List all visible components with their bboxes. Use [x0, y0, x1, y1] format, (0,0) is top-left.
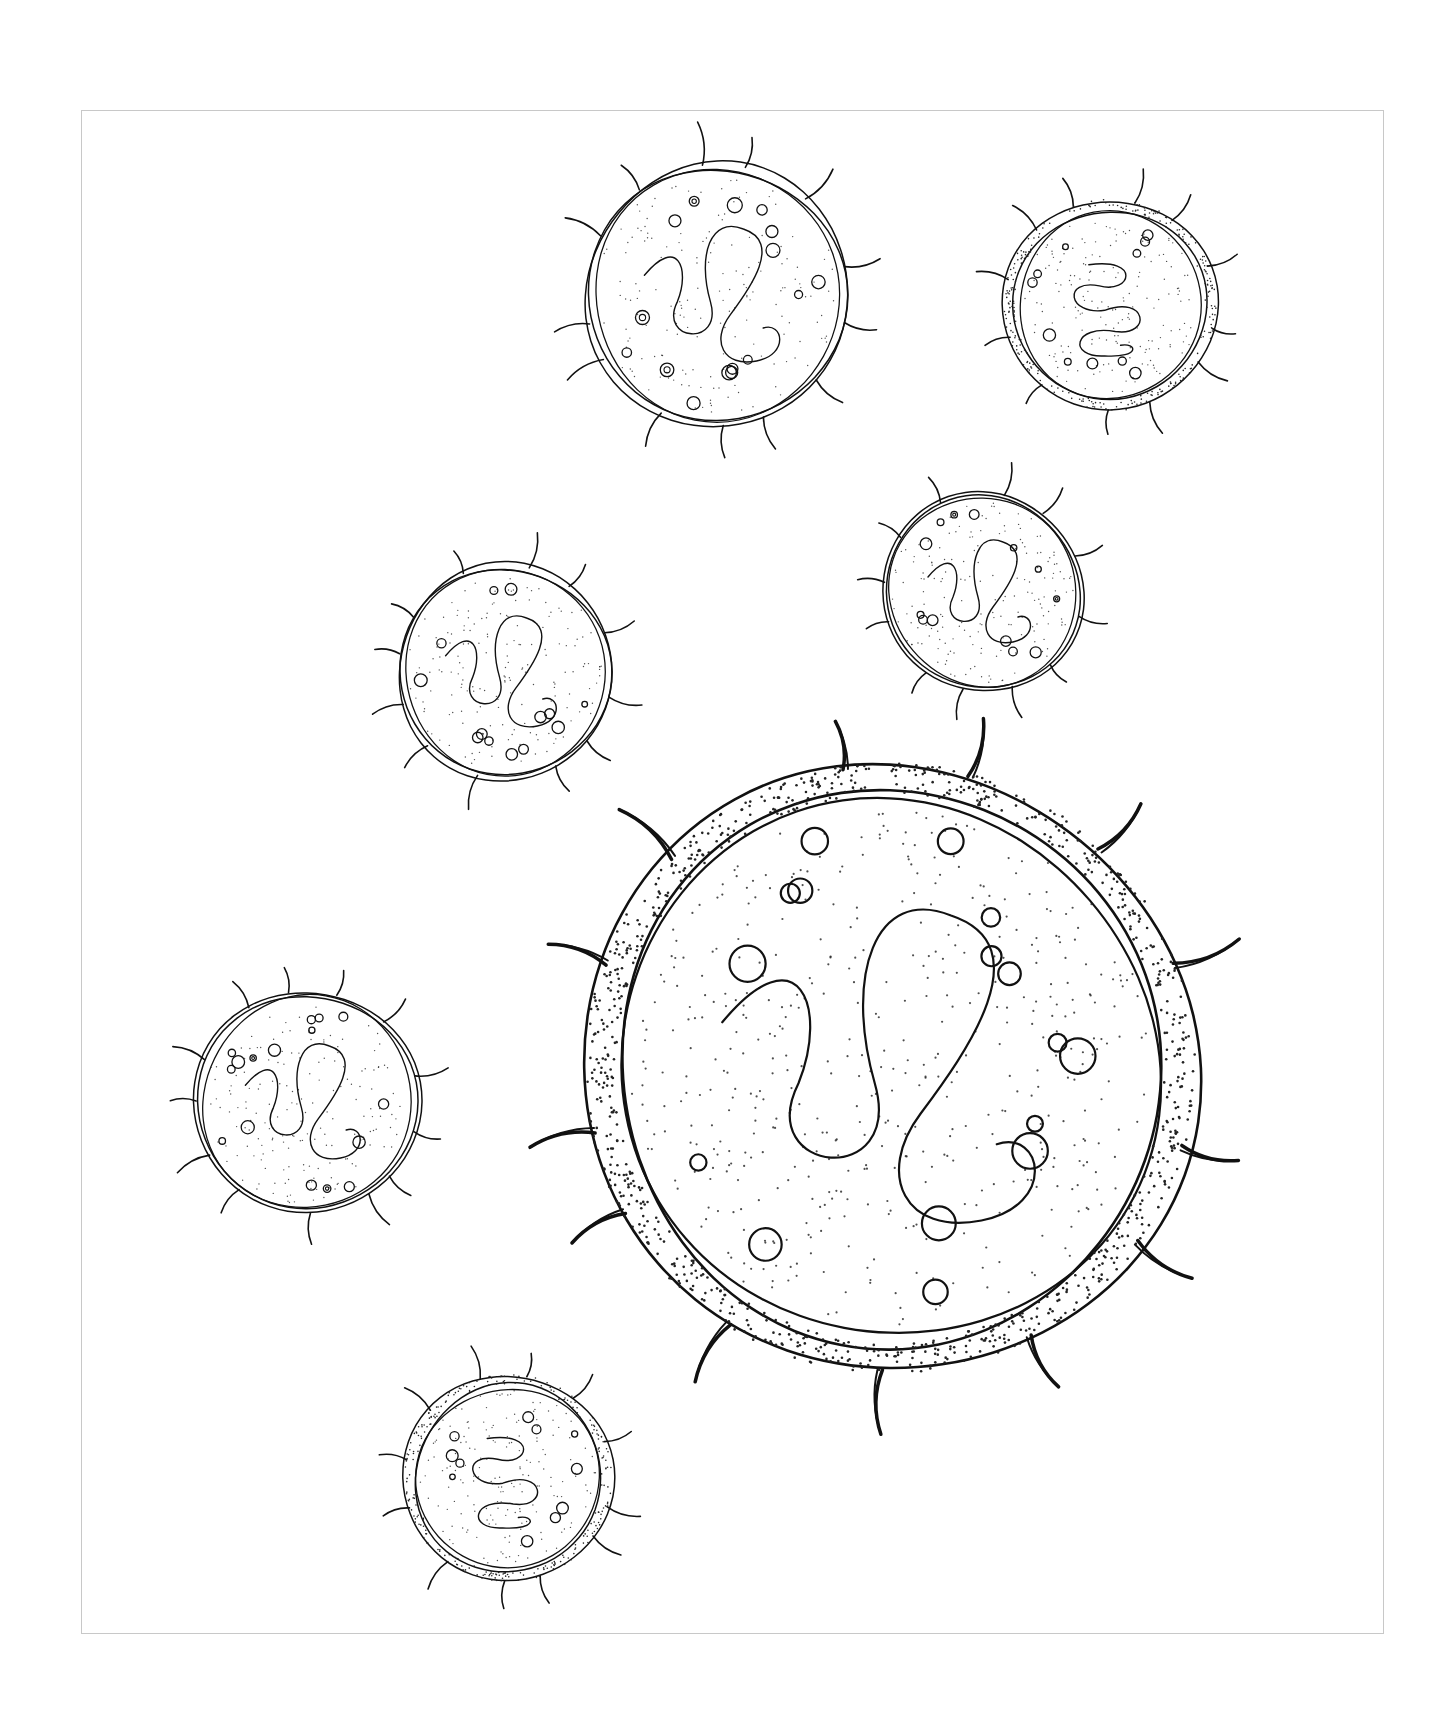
- cell-large: [530, 719, 1239, 1435]
- cell-top-center-nucleus: [644, 226, 779, 362]
- cell-top-right: [976, 169, 1237, 434]
- cell-top-center: [555, 122, 880, 458]
- cell-mid-left-nucleus: [446, 616, 557, 727]
- cell-lower-left-nucleus: [245, 1044, 360, 1159]
- cell-bottom: [379, 1346, 640, 1608]
- cell-large-nucleus: [722, 910, 1035, 1223]
- cell-mid-right-nucleus: [928, 540, 1031, 643]
- cell-lower-left: [170, 968, 448, 1245]
- cell-mid-left: [373, 533, 642, 809]
- cell-top-right-nucleus: [1074, 264, 1140, 356]
- cell-illustration: [0, 0, 1450, 1716]
- cell-bottom-nucleus: [473, 1438, 538, 1529]
- cell-mid-right: [858, 463, 1108, 720]
